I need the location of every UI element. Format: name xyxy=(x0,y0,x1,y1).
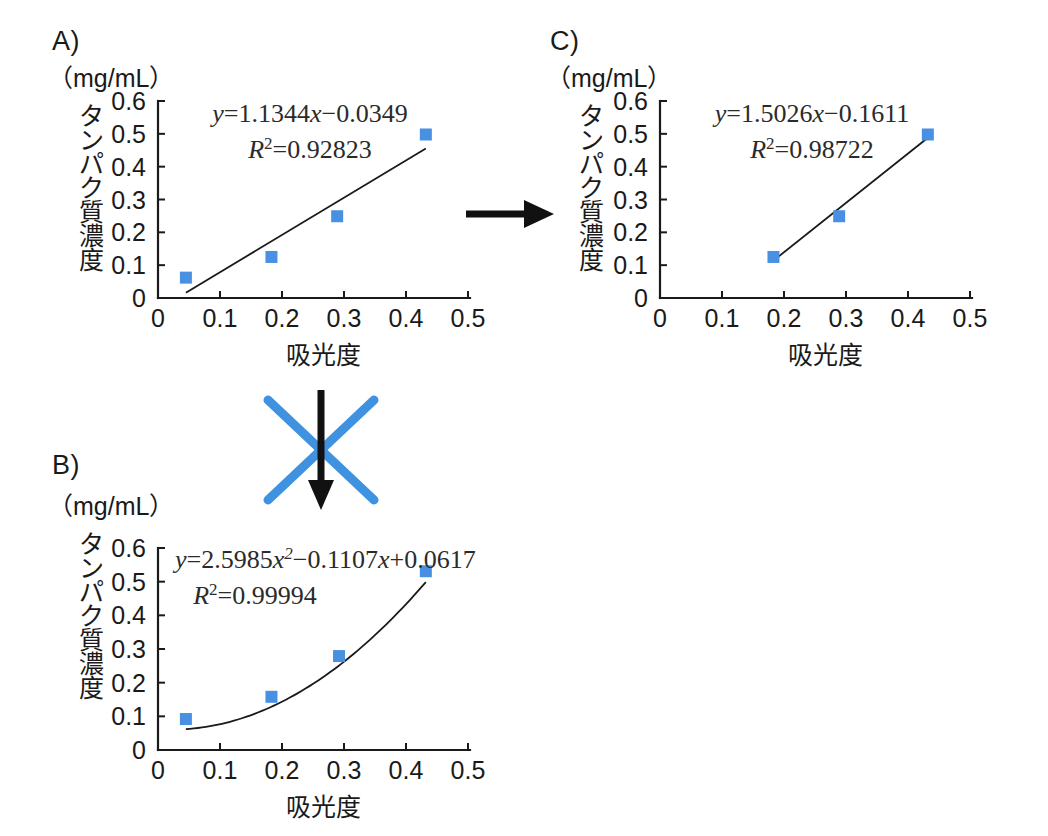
y-tick-label: 0.6 xyxy=(111,534,146,562)
y-tick-label: 0.2 xyxy=(613,218,648,246)
x-tick-label: 0.5 xyxy=(953,304,988,332)
data-point-marker xyxy=(420,128,432,140)
panel-a-plot: 00.10.20.30.40.500.10.20.30.40.50.6y=1.1… xyxy=(0,0,520,400)
x-tick-label: 0.4 xyxy=(389,304,424,332)
x-tick-label: 0.4 xyxy=(389,756,424,784)
fit-line xyxy=(186,149,426,293)
rejected-x-mark xyxy=(258,388,384,514)
x-tick-label: 0.3 xyxy=(327,756,362,784)
data-point-marker xyxy=(833,210,845,222)
x-tick-label: 0 xyxy=(653,304,667,332)
panel-a: A) （mg/mL） タ ン パ ク 質 濃 度 00.10.20.30.40.… xyxy=(0,0,520,400)
x-tick-label: 0.3 xyxy=(829,304,864,332)
r2-line: R2=0.98722 xyxy=(749,134,874,165)
x-tick-label: 0.2 xyxy=(767,304,802,332)
y-tick-label: 0.1 xyxy=(111,251,146,279)
y-tick-label: 0.5 xyxy=(613,120,648,148)
y-tick-label: 0.1 xyxy=(111,702,146,730)
equation-line: y=1.1344x−0.0349 xyxy=(209,99,407,128)
arrow-right-icon xyxy=(466,200,554,228)
data-point-marker xyxy=(180,713,192,725)
y-tick-label: 0.4 xyxy=(111,153,146,181)
y-tick-label: 0.2 xyxy=(111,669,146,697)
x-tick-label: 0.2 xyxy=(265,304,300,332)
y-tick-label: 0 xyxy=(132,284,146,312)
data-point-marker xyxy=(922,128,934,140)
data-point-marker xyxy=(767,251,779,263)
data-point-marker xyxy=(265,251,277,263)
y-tick-label: 0.6 xyxy=(613,87,648,115)
y-tick-label: 0.4 xyxy=(111,601,146,629)
equation-line: y=1.5026x−0.1611 xyxy=(712,99,909,128)
x-axis-title: 吸光度 xyxy=(788,341,863,369)
x-axis-title: 吸光度 xyxy=(286,793,361,821)
x-tick-label: 0.4 xyxy=(891,304,926,332)
x-tick-label: 0.1 xyxy=(203,756,238,784)
y-tick-label: 0.5 xyxy=(111,568,146,596)
y-tick-label: 0 xyxy=(634,284,648,312)
x-tick-label: 0.1 xyxy=(203,304,238,332)
x-tick-label: 0.3 xyxy=(327,304,362,332)
x-tick-label: 0.2 xyxy=(265,756,300,784)
equation-line: y=2.5985x2−0.1107x+0.0617 xyxy=(172,544,476,575)
y-tick-label: 0 xyxy=(132,736,146,764)
x-tick-label: 0 xyxy=(151,304,165,332)
arrow-down-icon xyxy=(308,390,334,510)
data-point-marker xyxy=(333,650,345,662)
y-tick-label: 0.3 xyxy=(613,186,648,214)
arrow-a-to-c xyxy=(462,192,558,236)
y-tick-label: 0.3 xyxy=(111,186,146,214)
x-axis-title: 吸光度 xyxy=(286,341,361,369)
panel-c-plot: 00.10.20.30.40.500.10.20.30.40.50.6y=1.5… xyxy=(500,0,1048,400)
y-tick-label: 0.6 xyxy=(111,87,146,115)
r2-line: R2=0.99994 xyxy=(192,580,317,611)
y-tick-label: 0.4 xyxy=(613,153,648,181)
x-tick-label: 0.5 xyxy=(451,756,486,784)
x-tick-label: 0.5 xyxy=(451,304,486,332)
data-point-marker xyxy=(180,272,192,284)
y-tick-label: 0.5 xyxy=(111,120,146,148)
data-point-marker xyxy=(331,210,343,222)
data-point-marker xyxy=(265,691,277,703)
y-tick-label: 0.1 xyxy=(613,251,648,279)
r2-line: R2=0.92823 xyxy=(247,134,372,165)
x-tick-label: 0.1 xyxy=(705,304,740,332)
y-tick-label: 0.2 xyxy=(111,218,146,246)
x-tick-label: 0 xyxy=(151,756,165,784)
y-tick-label: 0.3 xyxy=(111,635,146,663)
panel-c: C) （mg/mL） タ ン パ ク 質 濃 度 00.10.20.30.40.… xyxy=(500,0,1048,400)
